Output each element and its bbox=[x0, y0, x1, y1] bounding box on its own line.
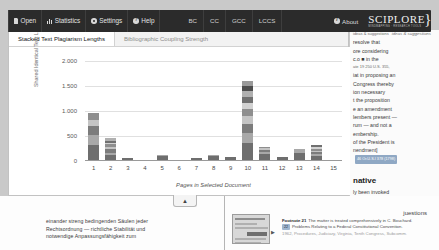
bar-segment bbox=[88, 135, 99, 145]
x-axis-tick: 4 bbox=[136, 165, 153, 171]
bar-segment bbox=[157, 156, 168, 161]
info-icon bbox=[334, 18, 340, 24]
x-axis-tick: 15 bbox=[325, 165, 342, 171]
x-axis-tick: 10 bbox=[239, 165, 256, 171]
toolbar-label: Settings bbox=[99, 10, 122, 32]
gear-icon bbox=[91, 18, 97, 24]
stacked-bar[interactable] bbox=[277, 157, 288, 160]
spacer bbox=[350, 164, 439, 169]
toolbar-button-lccs[interactable]: LCCS bbox=[253, 10, 283, 32]
reading-line: of the President is bbox=[350, 138, 439, 146]
bar-slot[interactable]: 12 bbox=[274, 61, 291, 160]
reading-line: embership. bbox=[350, 130, 439, 138]
tab-bibliographic-coupling-strength[interactable]: Bibliographic Coupling Strength bbox=[115, 32, 217, 46]
bar-series-group: 123456789101112131415 bbox=[85, 61, 342, 160]
footnote-block: Footnote 21 The matter is treated compre… bbox=[282, 218, 432, 237]
bar-segment bbox=[208, 156, 219, 160]
reading-line-citation: ate 19 250 U.S. 355, bbox=[350, 63, 439, 71]
bar-slot[interactable]: 6 bbox=[171, 61, 188, 160]
bar-slot[interactable]: 9 bbox=[222, 61, 239, 160]
bar-slot[interactable]: 3 bbox=[119, 61, 136, 160]
toolbar-button-open[interactable]: Open bbox=[8, 10, 42, 32]
section-heading: native bbox=[350, 176, 439, 185]
reading-line-reference[interactable]: 46 Or.U.S.I 378 (1798) bbox=[350, 154, 439, 163]
stacked-bar[interactable] bbox=[157, 155, 168, 161]
tab-stacked-text-plagiarism-lengths[interactable]: Stacked Text Plagiarism Lengths bbox=[9, 32, 115, 46]
bar-slot[interactable]: 8 bbox=[205, 61, 222, 160]
bar-slot[interactable]: 7 bbox=[188, 61, 205, 160]
collapse-panel-button[interactable]: ▲ bbox=[173, 195, 197, 207]
x-axis-tick: 5 bbox=[154, 165, 171, 171]
bar-segment bbox=[242, 124, 253, 133]
y-axis-tick: 500 bbox=[43, 133, 77, 139]
bar-segment bbox=[259, 154, 270, 160]
bar-slot[interactable]: 15 bbox=[325, 61, 342, 160]
toolbar-label: Open bbox=[21, 10, 37, 32]
bar-slot[interactable]: 2 bbox=[102, 61, 119, 160]
toolbar-button-statistics[interactable]: Statistics bbox=[42, 10, 86, 32]
stacked-bar[interactable] bbox=[122, 158, 133, 160]
logo-subtitle: MINDMAPPING · RESEARCH TOOLS bbox=[368, 25, 421, 28]
bar-segment bbox=[311, 156, 322, 160]
bar-segment bbox=[88, 126, 99, 135]
file-icon bbox=[14, 18, 18, 24]
logo-tagline: ideas & suggestions bbox=[392, 31, 431, 36]
bar-segment bbox=[294, 153, 305, 161]
bar-slot[interactable]: 10 bbox=[239, 61, 256, 160]
stacked-bar[interactable] bbox=[105, 138, 116, 160]
german-line: einander streng bedingenden Säulen jeder bbox=[46, 218, 226, 226]
toolbar-button-cc[interactable]: CC bbox=[204, 10, 226, 32]
stacked-bar[interactable] bbox=[242, 81, 253, 160]
stacked-bar-chart: Shared Identical Text Lengths 2.0001.500… bbox=[9, 47, 350, 195]
page-thumbnail[interactable] bbox=[232, 214, 270, 244]
stacked-bar[interactable] bbox=[294, 149, 305, 160]
german-line: notwendige Anpassungsfähigkeit zum bbox=[46, 233, 226, 241]
reading-line: Congress thereby bbox=[350, 80, 439, 88]
logo-text: SCIPLORE bbox=[368, 13, 425, 25]
bar-slot[interactable]: 1 bbox=[85, 61, 102, 160]
bar-slot[interactable]: 11 bbox=[256, 61, 273, 160]
reading-line: e an amendment bbox=[350, 105, 439, 113]
bar-slot[interactable]: 5 bbox=[154, 61, 171, 160]
y-axis-tick: 2.000 bbox=[43, 58, 77, 64]
x-axis-tick: 1 bbox=[85, 165, 102, 171]
bar-slot[interactable]: 4 bbox=[136, 61, 153, 160]
chart-panel: Stacked Text Plagiarism Lengths Bibliogr… bbox=[8, 32, 349, 196]
application-window: einander streng bedingenden Säulen jeder… bbox=[0, 0, 439, 250]
toolbar-button-about[interactable]: About bbox=[328, 18, 364, 25]
toolbar-label: Statistics bbox=[55, 10, 81, 32]
stacked-bar[interactable] bbox=[191, 158, 202, 160]
footnote-badge[interactable]: 22 bbox=[282, 224, 290, 230]
reading-line: ion necessary bbox=[350, 88, 439, 96]
toolbar-button-bc[interactable]: BC bbox=[182, 10, 204, 32]
toolbar-button-help[interactable]: Help bbox=[128, 10, 160, 32]
document-reading-pane[interactable]: ideas & suggestions resolve that ore con… bbox=[350, 30, 439, 196]
citation-badge[interactable]: 46 Or.U.S.I 378 (1798) bbox=[355, 155, 397, 163]
stacked-bar[interactable] bbox=[88, 113, 99, 160]
reading-line: lembers present — bbox=[350, 113, 439, 121]
sciplore-logo[interactable]: SCIPLORE } MINDMAPPING · RESEARCH TOOLS bbox=[364, 14, 431, 28]
x-axis-tick: 7 bbox=[188, 165, 205, 171]
bar-segment bbox=[122, 158, 133, 160]
toolbar-button-gcc[interactable]: GCC bbox=[226, 10, 253, 32]
x-axis-tick: 6 bbox=[171, 165, 188, 171]
toolbar-button-settings[interactable]: Settings bbox=[86, 10, 128, 32]
y-axis-tick: 1.000 bbox=[43, 108, 77, 114]
bar-slot[interactable]: 13 bbox=[291, 61, 308, 160]
stacked-bar[interactable] bbox=[259, 147, 270, 160]
logo-wordmark: SCIPLORE } bbox=[368, 14, 425, 25]
stacked-bar[interactable] bbox=[208, 155, 219, 161]
reading-line: rum — and not a bbox=[350, 121, 439, 129]
bar-slot[interactable]: 14 bbox=[308, 61, 325, 160]
bar-segment bbox=[225, 157, 236, 160]
bars-icon bbox=[47, 19, 52, 24]
logo-brace-icon: } bbox=[424, 12, 432, 26]
reading-line: t the proposition bbox=[350, 96, 439, 104]
y-axis-tick: 1.500 bbox=[43, 83, 77, 89]
x-axis-tick: 11 bbox=[256, 165, 273, 171]
plot-area: 123456789101112131415 bbox=[85, 61, 342, 161]
stacked-bar[interactable] bbox=[225, 157, 236, 161]
document-word-fragment: juestions bbox=[403, 210, 427, 216]
footnote-text: 1962, Procedures, Judiciary, Virginia, T… bbox=[282, 231, 407, 237]
stacked-bar[interactable] bbox=[311, 145, 322, 160]
